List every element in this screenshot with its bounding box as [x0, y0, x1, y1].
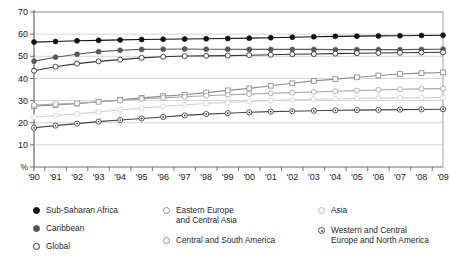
series-lines	[34, 35, 443, 128]
svg-text:'03: '03	[308, 172, 320, 182]
svg-text:'96: '96	[157, 172, 169, 182]
legend-item: Caribbean	[33, 223, 163, 233]
legend-marker-icon	[33, 243, 40, 250]
legend-marker-icon	[318, 227, 325, 234]
svg-text:60: 60	[18, 29, 28, 39]
legend-item-label: Western and Central Europe and North Ame…	[331, 225, 451, 245]
y-axis-labels: %10203040506070	[18, 7, 28, 172]
svg-text:'02: '02	[286, 172, 298, 182]
legend-item: Western and Central Europe and North Ame…	[318, 225, 451, 245]
svg-text:'98: '98	[200, 172, 212, 182]
svg-text:'93: '93	[93, 172, 105, 182]
svg-text:70: 70	[18, 7, 28, 17]
legend-column-1: Sub-Saharan Africa Caribbean Global	[33, 205, 163, 259]
x-axis-labels: '90'91'92'93'94'95'96'97'98'99'00'01'02'…	[28, 172, 449, 182]
legend-column-3: Asia Western and Central Europe and Nort…	[318, 205, 451, 253]
legend-item: Sub-Saharan Africa	[33, 205, 163, 215]
legend-marker-icon	[33, 207, 40, 214]
svg-text:'90: '90	[28, 172, 40, 182]
legend-item: Central and South America	[163, 235, 318, 245]
x-axis-ticks	[45, 167, 432, 171]
svg-text:'05: '05	[351, 172, 363, 182]
legend-item-label: Central and South America	[176, 235, 318, 245]
svg-text:20: 20	[18, 118, 28, 128]
legend-marker-icon	[163, 207, 170, 214]
legend-item-label: Caribbean	[46, 223, 163, 233]
gridlines	[34, 12, 443, 145]
legend-item: Eastern Europe and Central Asia	[163, 205, 318, 225]
svg-text:'94: '94	[114, 172, 126, 182]
line-chart: %10203040506070 '90'91'92'93'94'95'96'97…	[0, 0, 451, 196]
svg-text:'01: '01	[265, 172, 277, 182]
legend-marker-icon	[163, 237, 170, 244]
svg-text:10: 10	[18, 140, 28, 150]
svg-text:'09: '09	[437, 172, 449, 182]
svg-text:'97: '97	[179, 172, 191, 182]
legend-item-label: Sub-Saharan Africa	[46, 205, 163, 215]
legend-marker-icon	[318, 207, 325, 214]
svg-text:'91: '91	[50, 172, 62, 182]
svg-text:'06: '06	[373, 172, 385, 182]
legend-item: Asia	[318, 205, 451, 215]
svg-text:'00: '00	[243, 172, 255, 182]
svg-text:'08: '08	[416, 172, 428, 182]
legend-item-label: Asia	[331, 205, 451, 215]
legend-item-label: Global	[46, 241, 163, 251]
svg-text:%: %	[20, 162, 28, 172]
svg-text:'04: '04	[330, 172, 342, 182]
svg-text:40: 40	[18, 74, 28, 84]
chart-svg: %10203040506070 '90'91'92'93'94'95'96'97…	[0, 0, 451, 196]
svg-text:'99: '99	[222, 172, 234, 182]
chart-page: %10203040506070 '90'91'92'93'94'95'96'97…	[0, 0, 451, 270]
svg-text:30: 30	[18, 96, 28, 106]
legend-item: Global	[33, 241, 163, 251]
chart-legend: Sub-Saharan Africa Caribbean Global East…	[0, 205, 451, 270]
svg-text:'95: '95	[136, 172, 148, 182]
legend-marker-icon	[33, 225, 40, 232]
svg-text:50: 50	[18, 51, 28, 61]
series-markers	[31, 33, 445, 131]
svg-text:'92: '92	[71, 172, 83, 182]
svg-text:'07: '07	[394, 172, 406, 182]
legend-column-2: Eastern Europe and Central Asia Central …	[163, 205, 318, 253]
legend-item-label: Eastern Europe and Central Asia	[176, 205, 318, 225]
